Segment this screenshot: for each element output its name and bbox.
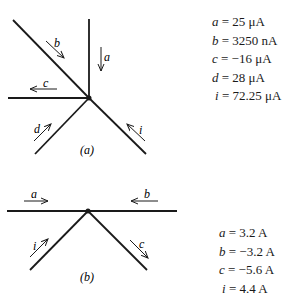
equation-a-3: d = 28 μA	[212, 69, 281, 88]
equation-value: = −16 μA	[218, 51, 272, 66]
label-d: d	[34, 122, 41, 136]
equation-value: = 25 μA	[219, 14, 265, 29]
equation-b-3: i = 4.4 A	[219, 280, 275, 299]
caption-b: (b)	[80, 270, 94, 284]
equation-value: = 3.2 A	[226, 225, 268, 240]
label-a: a	[104, 50, 110, 64]
equation-b-2: c = −5.6 A	[219, 261, 275, 280]
current-arrows-b	[24, 201, 158, 258]
label-b: b	[54, 36, 60, 50]
branch-i-wire	[89, 98, 146, 154]
equation-value: = −5.6 A	[225, 262, 274, 277]
caption-a: (a)	[80, 143, 94, 157]
node-b	[86, 209, 91, 214]
node-a	[87, 96, 92, 101]
equation-a-4: i = 72.25 μA	[212, 87, 281, 106]
equation-b-1: b = −3.2 A	[219, 243, 275, 262]
label-b-b: b	[144, 187, 150, 201]
label-a-b: a	[31, 187, 37, 201]
equations-a: a = 25 μA b = 3250 nA c = −16 μA d = 28 …	[212, 13, 281, 106]
equation-a-1: b = 3250 nA	[212, 32, 281, 51]
equation-value: = 72.25 μA	[219, 88, 282, 103]
branch-i-wire-b	[30, 211, 88, 270]
equation-value: = 28 μA	[219, 70, 265, 85]
branch-b-wire	[13, 20, 89, 98]
label-i: i	[139, 123, 142, 137]
label-c: c	[43, 76, 49, 90]
equations-b: a = 3.2 A b = −3.2 A c = −5.6 A i = 4.4 …	[219, 224, 275, 298]
equation-value: = −3.2 A	[226, 244, 275, 259]
equation-a-2: c = −16 μA	[212, 50, 281, 69]
equation-b-0: a = 3.2 A	[219, 224, 275, 243]
label-i-b: i	[33, 239, 36, 253]
equation-a-0: a = 25 μA	[212, 13, 281, 32]
equation-value: = 3250 nA	[219, 33, 278, 48]
circuit-a	[8, 19, 146, 154]
label-c-b: c	[139, 237, 145, 251]
equation-value: = 4.4 A	[226, 281, 268, 296]
